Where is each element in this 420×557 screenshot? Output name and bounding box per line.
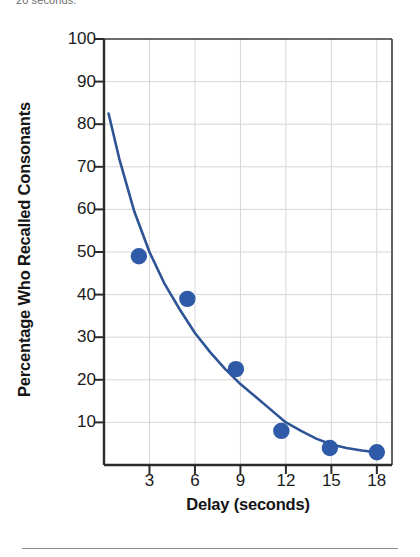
y-axis-tick-label: 100 (44, 29, 96, 49)
x-axis-tick-label: 12 (266, 471, 306, 491)
y-axis-tick-label: 90 (44, 72, 96, 92)
y-axis-tick-label: 30 (44, 327, 96, 347)
data-point-6 (369, 444, 385, 460)
chart-figure: 102030405060708090100 Percentage Who Rec… (0, 0, 420, 525)
y-axis-tick-label: 40 (44, 285, 96, 305)
data-series-curve (109, 114, 377, 453)
y-axis-tick-labels: 102030405060708090100 (38, 0, 96, 525)
y-axis-tick-label: 60 (44, 199, 96, 219)
x-axis-tick-label: 6 (175, 471, 215, 491)
data-point-3 (228, 361, 244, 377)
data-point-4 (273, 423, 289, 439)
y-axis-tick-label: 20 (44, 370, 96, 390)
footer-divider (22, 548, 398, 549)
y-axis-title: Percentage Who Recalled Consonants (15, 85, 34, 415)
x-axis-title: Delay (seconds) (104, 495, 392, 514)
x-axis-tick-label: 3 (129, 471, 169, 491)
x-axis-tick-label: 18 (357, 471, 397, 491)
y-axis-tick-label: 70 (44, 157, 96, 177)
y-axis-tick-label: 80 (44, 114, 96, 134)
data-point-1 (131, 248, 147, 264)
y-axis-tick-label: 50 (44, 242, 96, 262)
data-point-5 (322, 440, 338, 456)
x-axis-tick-label: 9 (220, 471, 260, 491)
data-point-2 (179, 291, 195, 307)
x-axis-tick-label: 15 (311, 471, 351, 491)
y-axis-tick-label: 10 (44, 412, 96, 432)
